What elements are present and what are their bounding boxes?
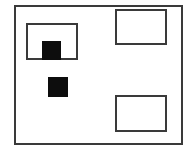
box-top-right bbox=[115, 9, 167, 45]
box-bottom-right bbox=[115, 95, 167, 132]
filled-square-middle-left bbox=[48, 77, 68, 97]
filled-square-in-top-left-box bbox=[42, 41, 61, 60]
diagram-canvas bbox=[0, 0, 188, 155]
